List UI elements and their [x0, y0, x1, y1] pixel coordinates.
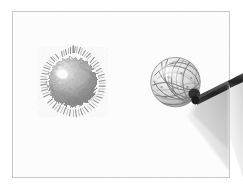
image-border — [12, 11, 230, 178]
photograph — [13, 12, 229, 177]
figure-root: Grayscale photograph of two spherical ob… — [0, 0, 243, 190]
photo-grain — [13, 12, 229, 177]
rod-segment-overflow — [228, 73, 243, 88]
